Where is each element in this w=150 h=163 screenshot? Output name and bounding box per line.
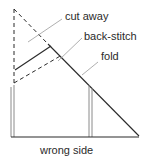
sewing-diagram xyxy=(0,0,150,163)
fold-leader xyxy=(82,62,98,75)
cut-away-leader xyxy=(28,19,62,42)
cut-away-label: cut away xyxy=(65,11,108,22)
back-stitch-line xyxy=(15,46,51,70)
dashed-seam-line xyxy=(14,55,62,83)
back-stitch-leader xyxy=(58,38,82,61)
back-stitch-label: back-stitch xyxy=(84,31,137,42)
dashed-upper-fold xyxy=(14,9,48,44)
wrong-side-label: wrong side xyxy=(40,145,93,156)
fold-label: fold xyxy=(101,51,119,62)
